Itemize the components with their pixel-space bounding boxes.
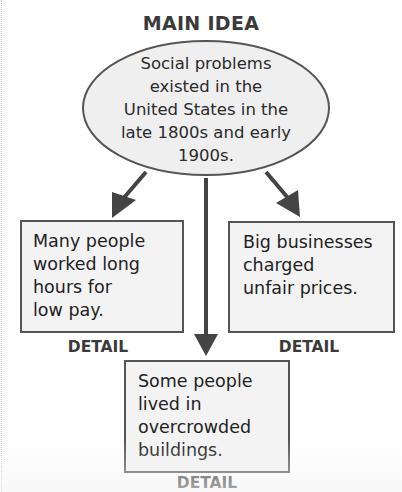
detail-line: buildings. (138, 439, 278, 462)
detail-line: Some people (138, 370, 278, 393)
main-idea-line: 1900s. (100, 144, 312, 167)
detail-line: Many people (33, 230, 172, 253)
arrow-to-right-detail (266, 172, 300, 217)
main-idea-text: Social problems existed in the United St… (100, 52, 312, 167)
detail-line: lived in (138, 393, 278, 416)
detail-label-left: DETAIL (38, 338, 158, 356)
detail-label-bottom: DETAIL (147, 474, 267, 492)
main-idea-line: Social problems (100, 52, 312, 75)
main-idea-line: late 1800s and early (100, 121, 312, 144)
detail-box-bottom: Some people lived in overcrowded buildin… (124, 360, 290, 473)
detail-box-left: Many people worked long hours for low pa… (20, 220, 184, 333)
detail-line: low pay. (33, 299, 172, 322)
arrow-to-left-detail (112, 172, 146, 218)
detail-line: unfair prices. (243, 277, 383, 300)
detail-line: charged (243, 254, 383, 277)
detail-line: overcrowded (138, 416, 278, 439)
detail-line: hours for (33, 276, 172, 299)
detail-label-right: DETAIL (249, 338, 369, 356)
detail-line: Big businesses (243, 231, 383, 254)
main-idea-line: existed in the (100, 75, 312, 98)
main-idea-line: United States in the (100, 98, 312, 121)
detail-line: worked long (33, 253, 172, 276)
arrow-to-bottom-detail (194, 178, 218, 356)
detail-box-right: Big businesses charged unfair prices. (228, 221, 395, 333)
